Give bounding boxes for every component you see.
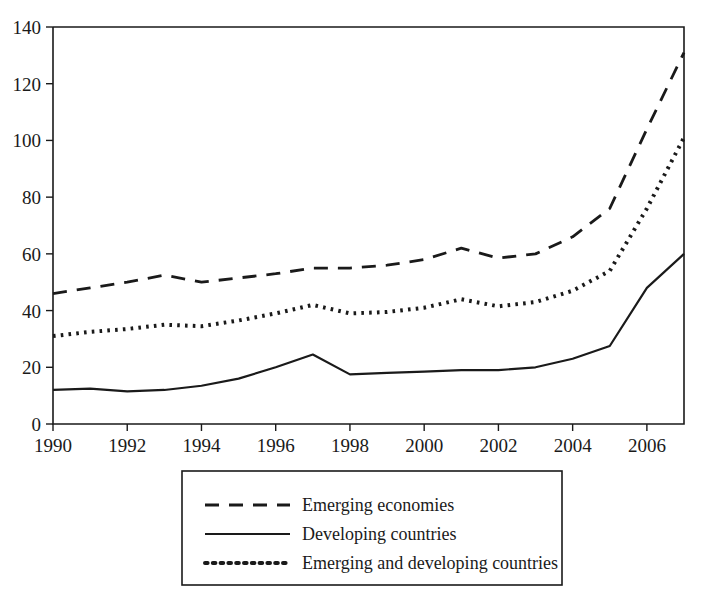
y-tick-label-0: 0 [32,414,42,435]
x-tick-label-1990: 1990 [34,435,72,456]
y-tick-label-20: 20 [22,357,41,378]
chart-figure: 020406080100120140 199019921994199619982… [0,0,702,609]
y-tick-label-120: 120 [13,74,42,95]
x-tick-label-2002: 2002 [479,435,517,456]
y-tick-label-80: 80 [22,187,41,208]
x-tick-label-1998: 1998 [331,435,369,456]
x-tick-label-2006: 2006 [628,435,666,456]
legend-label-2: Emerging and developing countries [302,553,558,573]
x-tick-label-1992: 1992 [108,435,146,456]
y-tick-label-140: 140 [13,17,42,38]
x-axis-tick-labels: 199019921994199619982000200220042006 [34,435,666,456]
x-tick-label-2000: 2000 [405,435,443,456]
line-chart: 020406080100120140 199019921994199619982… [0,0,702,609]
x-tick-label-1996: 1996 [257,435,295,456]
y-tick-label-100: 100 [13,130,42,151]
x-tick-label-2004: 2004 [554,435,593,456]
y-tick-label-40: 40 [22,301,41,322]
x-tick-label-1994: 1994 [182,435,221,456]
legend-label-0: Emerging economies [302,495,454,515]
chart-legend: Emerging economies Developing countries … [182,471,562,585]
legend-label-1: Developing countries [302,524,456,544]
y-tick-label-60: 60 [22,244,41,265]
